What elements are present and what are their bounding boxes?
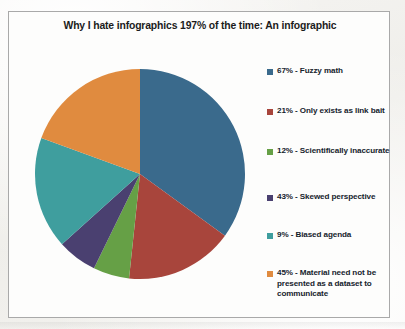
- legend-swatch-icon: [267, 149, 273, 155]
- legend-item-link-bait[interactable]: 21% - Only exists as link bait: [267, 106, 385, 117]
- legend-item-label: 9% - Biased agenda: [277, 230, 351, 241]
- legend-item-label: 43% - Skewed perspective: [277, 192, 375, 203]
- legend-item-fuzzy-math[interactable]: 67% - Fuzzy math: [267, 66, 343, 77]
- legend-item-label: 45% - Material need not be presented as …: [277, 268, 391, 300]
- legend-item-biased-agenda[interactable]: 9% - Biased agenda: [267, 230, 351, 241]
- pie-svg: [34, 68, 246, 280]
- legend-item-scientifically-inaccurate[interactable]: 12% - Scientifically inaccurate: [267, 146, 390, 157]
- legend-item-label: 12% - Scientifically inaccurate: [277, 146, 390, 157]
- legend-swatch-icon: [267, 109, 273, 115]
- chart-title: Why I hate infographics 197% of the time…: [9, 20, 391, 31]
- legend-item-label: 21% - Only exists as link bait: [277, 106, 385, 117]
- pie-chart: [34, 68, 246, 280]
- legend-swatch-icon: [267, 195, 273, 201]
- legend-item-material-dataset[interactable]: 45% - Material need not be presented as …: [267, 268, 391, 300]
- legend-item-label: 67% - Fuzzy math: [277, 66, 343, 77]
- legend-swatch-icon: [267, 69, 273, 75]
- chart-frame: Why I hate infographics 197% of the time…: [8, 11, 390, 318]
- legend-swatch-icon: [267, 233, 273, 239]
- legend-item-skewed-perspective[interactable]: 43% - Skewed perspective: [267, 192, 375, 203]
- legend-swatch-icon: [267, 271, 273, 277]
